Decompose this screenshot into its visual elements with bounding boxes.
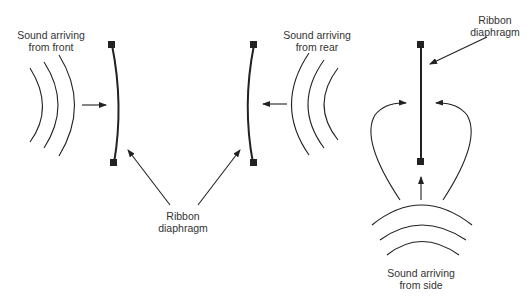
ribbon-microphone-diagram: Sound arriving from front Sound arriving… xyxy=(0,0,530,296)
front-sound-wave-1 xyxy=(30,68,43,142)
front-label-line1: Sound arriving xyxy=(16,29,86,41)
rear-sound-wave-1 xyxy=(292,53,310,155)
side-ribbon-label-line1: Ribbon xyxy=(462,14,528,26)
label-arrow-to-front-ribbon xyxy=(128,150,170,205)
side-label-arrow xyxy=(430,37,487,64)
side-panel xyxy=(371,37,487,255)
rear-ribbon-clamp-bottom xyxy=(250,159,257,166)
rear-ribbon-clamp-top xyxy=(250,41,257,48)
front-ribbon-diaphragm xyxy=(112,45,119,163)
rear-label-line1: Sound arriving xyxy=(282,29,352,41)
ribbon-label-line1: Ribbon xyxy=(148,210,218,222)
side-sound-wave-2 xyxy=(380,225,466,240)
ribbon-label-line2: diaphragm xyxy=(148,222,218,234)
side-label: Sound arriving from side xyxy=(386,267,456,291)
front-label: Sound arriving from front xyxy=(16,29,86,53)
side-right-wraparound-arrow xyxy=(436,103,471,200)
rear-label: Sound arriving from rear xyxy=(282,29,352,53)
front-label-line2: from front xyxy=(16,41,86,53)
front-ribbon-clamp-top xyxy=(108,41,115,48)
front-sound-wave-2 xyxy=(44,62,58,148)
rear-sound-wave-3 xyxy=(324,68,338,140)
label-arrow-to-rear-ribbon xyxy=(198,150,240,205)
side-ribbon-label-line2: diaphragm xyxy=(462,26,528,38)
ribbon-diaphragm-label: Ribbon diaphragm xyxy=(148,210,218,234)
side-label-line1: Sound arriving xyxy=(386,267,456,279)
rear-label-line2: from rear xyxy=(282,41,352,53)
side-ribbon-clamp-top xyxy=(417,41,424,48)
rear-sound-wave-2 xyxy=(308,60,324,148)
front-ribbon-clamp-bottom xyxy=(110,159,117,166)
side-ribbon-clamp-bottom xyxy=(417,158,424,165)
front-panel xyxy=(30,41,119,166)
side-label-line2: from side xyxy=(386,279,456,291)
side-sound-wave-3 xyxy=(387,242,459,256)
rear-ribbon-diaphragm xyxy=(248,45,254,163)
front-sound-wave-3 xyxy=(59,55,75,156)
side-sound-wave-1 xyxy=(372,205,472,225)
side-left-wraparound-arrow xyxy=(371,103,406,200)
rear-panel xyxy=(248,41,338,166)
side-ribbon-diaphragm-label: Ribbon diaphragm xyxy=(462,14,528,38)
